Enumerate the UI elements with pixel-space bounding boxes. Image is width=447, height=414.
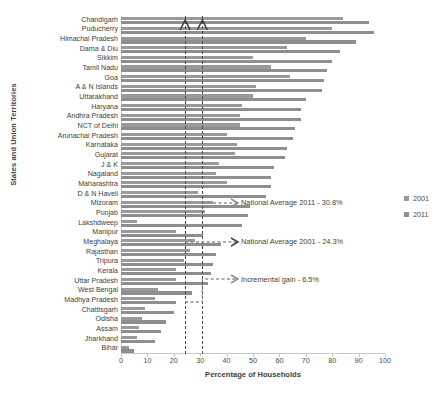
- bar-group: [121, 171, 385, 181]
- bar-2001: [121, 17, 343, 20]
- bar-2011: [121, 340, 155, 343]
- bar-2011: [121, 60, 332, 63]
- bar-2001: [121, 37, 306, 40]
- bar-group: [121, 74, 385, 84]
- category-label: Puducherry: [14, 26, 118, 33]
- bar-group: [121, 257, 385, 267]
- bar-2011: [121, 349, 134, 352]
- category-label: Andhra Pradesh: [14, 113, 118, 120]
- bar-group: [121, 93, 385, 103]
- bar-2011: [121, 98, 306, 101]
- bar-2011: [121, 108, 301, 111]
- bar-2011: [121, 40, 356, 43]
- x-tick-label: 30: [196, 356, 204, 365]
- category-label: Lakshdweep: [14, 220, 118, 227]
- category-label: Maharashtra: [14, 181, 118, 188]
- category-label: Rajasthan: [14, 249, 118, 256]
- bar-group: [121, 113, 385, 123]
- bar-2001: [121, 133, 227, 136]
- legend-label: 2001: [413, 194, 429, 203]
- bar-2011: [121, 31, 374, 34]
- category-label: Tripura: [14, 258, 118, 265]
- bar-2001: [121, 288, 158, 291]
- bar-group: [121, 296, 385, 306]
- plot-area: [121, 16, 385, 354]
- bar-2001: [121, 336, 137, 339]
- x-tick-label: 0: [119, 356, 123, 365]
- category-label: Punjab: [14, 210, 118, 217]
- bar-2001: [121, 317, 142, 320]
- bar-group: [121, 248, 385, 258]
- bar-2001: [121, 249, 190, 252]
- category-label: West Bengal: [14, 287, 118, 294]
- bar-2001: [121, 268, 176, 271]
- bar-group: [121, 64, 385, 74]
- bar-2001: [121, 75, 290, 78]
- category-label: Madhya Pradesh: [14, 297, 118, 304]
- legend-swatch-icon: [404, 212, 409, 217]
- bar-2001: [121, 162, 219, 165]
- x-tick-label: 90: [355, 356, 363, 365]
- bar-2001: [121, 104, 242, 107]
- category-label: Gujarat: [14, 152, 118, 159]
- bar-group: [121, 84, 385, 94]
- bar-2001: [121, 123, 240, 126]
- bar-chart: States and Union Territories ChandigarhP…: [0, 0, 447, 414]
- bar-group: [121, 161, 385, 171]
- bar-2011: [121, 224, 242, 227]
- bar-2011: [121, 282, 208, 285]
- bar-2011: [121, 69, 327, 72]
- x-tick-label: 20: [170, 356, 178, 365]
- bar-2011: [121, 301, 176, 304]
- bar-2011: [121, 118, 301, 121]
- chart-legend: 2001 2011: [404, 194, 429, 226]
- bar-2001: [121, 210, 205, 213]
- category-label: J & K: [14, 162, 118, 169]
- bar-2001: [121, 85, 256, 88]
- x-tick-label: 70: [302, 356, 310, 365]
- bar-2011: [121, 291, 192, 294]
- bar-group: [121, 122, 385, 132]
- x-tick-label: 40: [223, 356, 231, 365]
- bar-2001: [121, 259, 184, 262]
- bar-2011: [121, 243, 221, 246]
- category-label: Jharkhand: [14, 336, 118, 343]
- bar-2011: [121, 166, 274, 169]
- category-label: Nagaland: [14, 171, 118, 178]
- bar-2001: [121, 220, 137, 223]
- bar-2001: [121, 114, 240, 117]
- bar-group: [121, 219, 385, 229]
- legend-swatch-icon: [404, 196, 409, 201]
- bar-2001: [121, 46, 287, 49]
- bar-group: [121, 132, 385, 142]
- category-label: Manipur: [14, 229, 118, 236]
- category-label: Meghalaya: [14, 239, 118, 246]
- bar-2001: [121, 94, 253, 97]
- category-label: Tamil Nadu: [14, 65, 118, 72]
- bar-2001: [121, 56, 253, 59]
- category-label: D & N Haveli: [14, 191, 118, 198]
- category-label: Uttarakhand: [14, 94, 118, 101]
- bar-2001: [121, 65, 271, 68]
- category-label: Himachal Pradesh: [14, 36, 118, 43]
- bar-2011: [121, 21, 369, 24]
- bar-2011: [121, 263, 213, 266]
- bar-2011: [121, 320, 166, 323]
- bar-group: [121, 45, 385, 55]
- bar-2011: [121, 185, 271, 188]
- bar-2001: [121, 307, 145, 310]
- category-label: Goa: [14, 75, 118, 82]
- annotation-national-average-2001: National Average 2001 - 24.3%: [241, 237, 343, 246]
- category-label: Chattisgarh: [14, 307, 118, 314]
- bar-group: [121, 180, 385, 190]
- bar-2001: [121, 27, 332, 30]
- bar-group: [121, 151, 385, 161]
- category-label: Chandigarh: [14, 17, 118, 24]
- bar-2011: [121, 176, 271, 179]
- bar-2001: [121, 181, 227, 184]
- bar-2011: [121, 50, 340, 53]
- bar-group: [121, 16, 385, 26]
- bar-2011: [121, 272, 211, 275]
- bar-2011: [121, 147, 287, 150]
- category-label: NCT of Delhi: [14, 123, 118, 130]
